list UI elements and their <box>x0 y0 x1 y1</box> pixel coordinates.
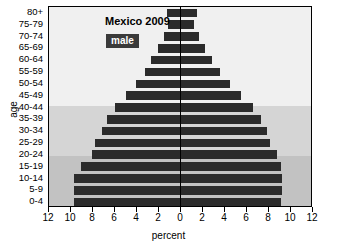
bar-female-15-19 <box>180 162 281 171</box>
x-tick-label: 6 <box>234 212 258 223</box>
y-tick-70-74: 70-74 <box>19 30 43 42</box>
bar-female-55-59 <box>180 68 220 77</box>
y-tick-35-39: 35-39 <box>19 112 43 124</box>
chart-title: Mexico 2009 <box>105 15 170 27</box>
x-tick-label: 8 <box>256 212 280 223</box>
x-tick-label: 8 <box>80 212 104 223</box>
bar-female-70-74 <box>180 32 199 41</box>
x-tick-label: 2 <box>146 212 170 223</box>
x-tick-label: 4 <box>212 212 236 223</box>
x-axis-label: percent <box>0 230 337 241</box>
y-tick-65-69: 65-69 <box>19 41 43 53</box>
bar-female-60-64 <box>180 56 212 65</box>
x-tick-label: 4 <box>124 212 148 223</box>
bar-female-20-24 <box>180 150 277 159</box>
y-tick-75-79: 75-79 <box>19 18 43 30</box>
y-tick-45-49: 45-49 <box>19 89 43 101</box>
x-tick-label: 6 <box>102 212 126 223</box>
bar-male-15-19 <box>81 162 180 171</box>
bar-male-20-24 <box>92 150 180 159</box>
bar-male-70-74 <box>164 32 181 41</box>
bar-male-60-64 <box>151 56 180 65</box>
bar-male-35-39 <box>107 115 180 124</box>
bar-female-40-44 <box>180 103 253 112</box>
bar-male-45-49 <box>126 91 180 100</box>
bar-female-75-79 <box>180 20 194 29</box>
y-tick-25-29: 25-29 <box>19 136 43 148</box>
x-tick-label: 2 <box>190 212 214 223</box>
center-axis-line <box>180 7 181 206</box>
bar-female-50-54 <box>180 80 230 89</box>
bar-female-30-34 <box>180 127 267 136</box>
y-tick-80+: 80+ <box>27 6 43 18</box>
x-axis-tick-labels: 12108642024681012 <box>0 212 337 226</box>
bar-female-45-49 <box>180 91 241 100</box>
y-tick-30-34: 30-34 <box>19 124 43 136</box>
y-tick-0-4: 0-4 <box>29 195 43 207</box>
y-tick-10-14: 10-14 <box>19 172 43 184</box>
bar-male-30-34 <box>102 127 180 136</box>
x-tick-label: 12 <box>300 212 324 223</box>
y-tick-5-9: 5-9 <box>29 183 43 195</box>
y-tick-15-19: 15-19 <box>19 160 43 172</box>
bar-female-0-4 <box>180 198 281 207</box>
bar-male-0-4 <box>74 198 180 207</box>
bar-female-80+ <box>180 9 197 18</box>
y-tick-60-64: 60-64 <box>19 53 43 65</box>
population-pyramid-figure: age 0-45-910-1415-1920-2425-2930-3435-39… <box>0 0 337 251</box>
bar-female-65-69 <box>180 44 205 53</box>
bar-male-40-44 <box>115 103 180 112</box>
y-axis-tick-labels: 0-45-910-1415-1920-2425-2930-3435-3940-4… <box>0 6 46 207</box>
bar-male-25-29 <box>95 139 180 148</box>
bar-female-10-14 <box>180 174 282 183</box>
x-tick-label: 12 <box>36 212 60 223</box>
bar-female-25-29 <box>180 139 270 148</box>
bar-female-5-9 <box>180 186 282 195</box>
y-tick-20-24: 20-24 <box>19 148 43 160</box>
bar-male-55-59 <box>145 68 180 77</box>
plot-area: Mexico 2009 male female <box>48 6 312 207</box>
x-tick-label: 0 <box>168 212 192 223</box>
bar-female-35-39 <box>180 115 261 124</box>
bar-male-50-54 <box>136 80 180 89</box>
bar-male-10-14 <box>74 174 180 183</box>
y-tick-50-54: 50-54 <box>19 77 43 89</box>
legend-badge-male: male <box>106 34 139 48</box>
x-tick-label: 10 <box>58 212 82 223</box>
y-tick-55-59: 55-59 <box>19 65 43 77</box>
bar-male-65-69 <box>158 44 180 53</box>
bar-male-5-9 <box>74 186 180 195</box>
x-tick-label: 10 <box>278 212 302 223</box>
y-tick-40-44: 40-44 <box>19 101 43 113</box>
